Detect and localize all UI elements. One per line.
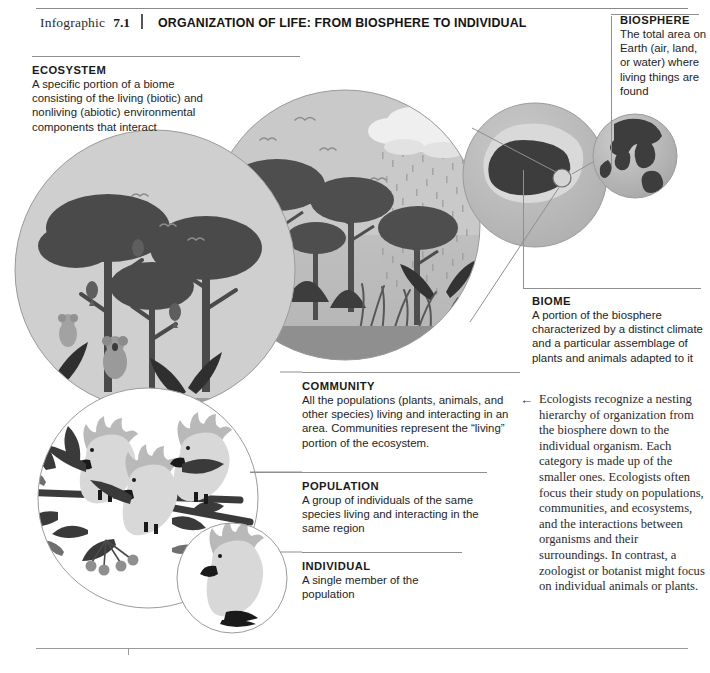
- cockatoo: [170, 412, 232, 504]
- callout-leader-line: [523, 170, 524, 288]
- callout-leader-line: [611, 16, 612, 166]
- cockatoo: [90, 444, 180, 535]
- callout-rule: [523, 288, 701, 289]
- community-scene: [4, 130, 305, 424]
- note-text: Ecologists recognize a nesting hierarchy…: [539, 392, 706, 595]
- callout-population: POPULATION A group of individuals of the…: [302, 472, 487, 536]
- callout-biosphere: BIOSPHERE The total area on Earth (air, …: [620, 14, 708, 98]
- page-title: ORGANIZATION OF LIFE: FROM BIOSPHERE TO …: [158, 16, 526, 30]
- koala-2: [58, 314, 78, 347]
- callout-ecosystem: ECOSYSTEM A specific portion of a biome …: [32, 56, 228, 134]
- individual-scene: [177, 520, 287, 633]
- callout-title: BIOSPHERE: [620, 14, 708, 26]
- callout-body: A single member of the population: [302, 573, 462, 601]
- callout-leader-line: [228, 56, 300, 57]
- callout-individual: INDIVIDUAL A single member of the popula…: [302, 552, 462, 601]
- footer-rule: [36, 648, 688, 649]
- callout-biome: BIOME A portion of the biosphere charact…: [532, 288, 710, 365]
- callout-rule: [302, 552, 462, 553]
- callout-body: All the populations (plants, animals, an…: [302, 393, 520, 450]
- footer-tick: [128, 648, 129, 655]
- callout-community: COMMUNITY All the populations (plants, a…: [302, 372, 520, 450]
- callout-rule: [302, 472, 487, 473]
- header-label: Infographic: [40, 15, 105, 31]
- left-arrow-icon: ←: [520, 392, 533, 595]
- callout-title: COMMUNITY: [302, 380, 520, 392]
- header-top-rule: [36, 8, 688, 9]
- callout-rule: [611, 14, 699, 15]
- header: Infographic 7.1 ORGANIZATION OF LIFE: FR…: [40, 12, 526, 31]
- koala: [102, 336, 128, 379]
- callout-body: A specific portion of a biome consisting…: [32, 77, 228, 134]
- callout-body: A group of individuals of the same speci…: [302, 493, 487, 536]
- cloud-group: [368, 107, 484, 155]
- header-number: 7.1: [113, 15, 130, 31]
- callout-title: INDIVIDUAL: [302, 560, 462, 572]
- callout-rule: [32, 56, 228, 57]
- cockatoo: [42, 416, 138, 503]
- callout-title: POPULATION: [302, 480, 487, 492]
- globe-biosphere: [593, 114, 677, 198]
- header-divider: [141, 14, 143, 29]
- callout-title: ECOSYSTEM: [32, 64, 228, 76]
- callout-leader-line: [250, 472, 302, 473]
- explanatory-note: ← Ecologists recognize a nesting hierarc…: [520, 392, 706, 595]
- callout-body: The total area on Earth (air, land, or w…: [620, 27, 708, 98]
- infographic-page: Infographic 7.1 ORGANIZATION OF LIFE: FR…: [0, 0, 710, 673]
- callout-body: A portion of the biosphere characterized…: [532, 308, 710, 365]
- callout-rule: [302, 372, 520, 373]
- population-scene: [20, 388, 258, 608]
- ecosystem-scene: [210, 90, 490, 366]
- callout-title: BIOME: [532, 295, 710, 307]
- biome-scene: [463, 103, 607, 247]
